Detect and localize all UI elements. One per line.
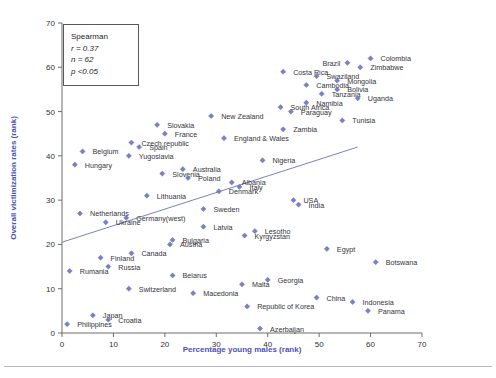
diamond-marker[interactable]	[340, 118, 345, 123]
diamond-marker[interactable]	[216, 189, 221, 194]
diamond-marker[interactable]	[77, 211, 82, 216]
diamond-marker[interactable]	[257, 326, 262, 331]
data-point-label: Poland	[198, 174, 220, 183]
diamond-marker[interactable]	[155, 122, 160, 127]
data-point-label: Panama	[378, 307, 405, 316]
diamond-marker[interactable]	[373, 260, 378, 265]
data-point[interactable]: Uganda	[355, 94, 393, 103]
data-point[interactable]: Canada	[129, 249, 167, 258]
data-point[interactable]: Zambia	[281, 125, 318, 134]
data-point[interactable]: Slovakia	[155, 121, 195, 130]
data-point[interactable]: Panama	[365, 307, 404, 316]
diamond-marker[interactable]	[167, 242, 172, 247]
diamond-marker[interactable]	[281, 127, 286, 132]
diamond-marker[interactable]	[291, 198, 296, 203]
diamond-marker[interactable]	[144, 193, 149, 198]
data-point[interactable]: Yugoslavia	[126, 152, 173, 161]
diamond-marker[interactable]	[260, 158, 265, 163]
diamond-marker[interactable]	[126, 153, 131, 158]
data-point-label: Ukraine	[116, 218, 141, 227]
diamond-marker[interactable]	[365, 308, 370, 313]
diamond-marker[interactable]	[126, 286, 131, 291]
diamond-marker[interactable]	[170, 237, 175, 242]
diamond-marker[interactable]	[162, 131, 167, 136]
data-point[interactable]: France	[162, 130, 197, 139]
data-point[interactable]: Costa Rica	[281, 68, 329, 77]
data-point[interactable]: Slovenia	[160, 170, 200, 179]
diamond-marker[interactable]	[242, 233, 247, 238]
data-point[interactable]: Colombia	[368, 54, 411, 63]
data-point[interactable]: Rumania	[67, 267, 108, 276]
diamond-marker[interactable]	[65, 322, 70, 327]
data-point[interactable]: Republic of Korea	[245, 302, 315, 311]
data-point[interactable]: Botswana	[373, 258, 417, 267]
data-point-label: Brazil	[322, 59, 340, 68]
diamond-marker[interactable]	[201, 224, 206, 229]
diamond-marker[interactable]	[239, 282, 244, 287]
diamond-marker[interactable]	[221, 136, 226, 141]
data-point[interactable]: Tunisia	[340, 116, 376, 125]
data-point[interactable]: China	[314, 294, 345, 303]
data-point[interactable]: India	[296, 201, 324, 210]
diamond-marker[interactable]	[368, 56, 373, 61]
diamond-marker[interactable]	[345, 60, 350, 65]
data-point-label: Macedonia	[203, 289, 238, 298]
diamond-marker[interactable]	[358, 65, 363, 70]
data-point[interactable]: Hungary	[72, 161, 112, 170]
data-point[interactable]: Kyrgyzstan	[242, 232, 290, 241]
data-point-label: Republic of Korea	[257, 302, 314, 311]
data-point-label: China	[327, 294, 346, 303]
data-point[interactable]: Ukraine	[103, 218, 140, 227]
data-point[interactable]: Russia	[106, 263, 141, 272]
data-point-label: Lithuania	[157, 192, 186, 201]
diamond-marker[interactable]	[350, 299, 355, 304]
diamond-marker[interactable]	[229, 180, 234, 185]
diamond-marker[interactable]	[314, 295, 319, 300]
data-point-label: Croatia	[118, 316, 141, 325]
data-point[interactable]: Cambodia	[304, 81, 349, 90]
diamond-marker[interactable]	[72, 162, 77, 167]
data-point[interactable]: Macedonia	[191, 289, 239, 298]
data-point[interactable]: England & Wales	[221, 134, 289, 143]
diamond-marker[interactable]	[129, 140, 134, 145]
data-point[interactable]: Tanzania	[319, 90, 360, 99]
data-point[interactable]: Georgia	[265, 276, 303, 285]
data-point[interactable]: Indonesia	[350, 298, 394, 307]
data-point[interactable]: Finland	[98, 254, 134, 263]
data-point[interactable]: Belarus	[170, 271, 207, 280]
diamond-marker[interactable]	[324, 246, 329, 251]
diamond-marker[interactable]	[98, 255, 103, 260]
diamond-marker[interactable]	[80, 149, 85, 154]
data-point[interactable]: Azerbaijan	[257, 325, 304, 334]
diamond-marker[interactable]	[296, 202, 301, 207]
diamond-marker[interactable]	[103, 220, 108, 225]
data-point[interactable]: Malta	[239, 280, 269, 289]
diamond-marker[interactable]	[191, 291, 196, 296]
data-point[interactable]: Belgium	[80, 147, 119, 156]
data-point[interactable]: Egypt	[324, 245, 355, 254]
diamond-marker[interactable]	[67, 268, 72, 273]
data-point[interactable]: Zimbabwe	[358, 63, 404, 72]
diamond-marker[interactable]	[304, 82, 309, 87]
data-point[interactable]: Brazil	[322, 59, 350, 68]
data-point[interactable]: Latvia	[201, 223, 233, 232]
diamond-marker[interactable]	[201, 206, 206, 211]
data-point[interactable]: Lithuania	[144, 192, 186, 201]
data-point[interactable]: Netherlands	[77, 209, 129, 218]
diamond-marker[interactable]	[319, 91, 324, 96]
stats-title: Spearman	[71, 31, 138, 43]
diamond-marker[interactable]	[245, 304, 250, 309]
data-point[interactable]: New Zealand	[209, 112, 264, 121]
data-point[interactable]: Nigeria	[260, 156, 295, 165]
data-point[interactable]: Denmark	[216, 187, 258, 196]
diamond-marker[interactable]	[90, 313, 95, 318]
data-point[interactable]: Philippines	[65, 320, 113, 329]
diamond-marker[interactable]	[278, 105, 283, 110]
data-point[interactable]: Switzerland	[126, 285, 176, 294]
data-point[interactable]: Sweden	[201, 205, 240, 214]
x-axis-title: Percentage young males (rank)	[183, 345, 302, 354]
diamond-marker[interactable]	[160, 171, 165, 176]
diamond-marker[interactable]	[209, 113, 214, 118]
diamond-marker[interactable]	[281, 69, 286, 74]
diamond-marker[interactable]	[170, 273, 175, 278]
